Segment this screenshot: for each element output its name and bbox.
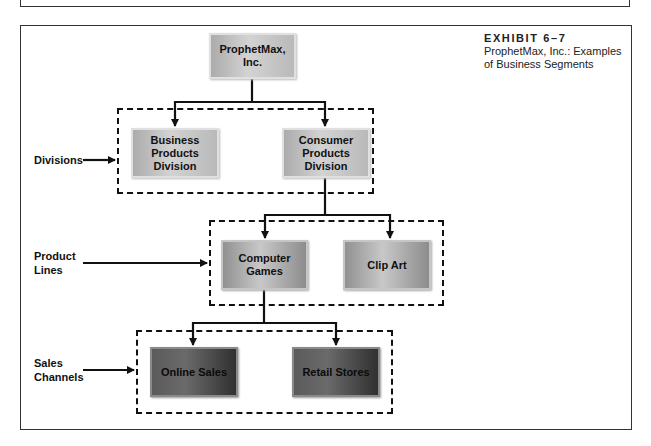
node-consumer-products-division: ConsumerProductsDivision <box>282 128 370 178</box>
node-computer-games: ComputerGames <box>221 240 308 290</box>
node-online-sales: Online Sales <box>150 347 238 397</box>
node-retail-stores: Retail Stores <box>292 347 380 397</box>
node-prophetmax: ProphetMax,Inc. <box>209 33 296 79</box>
label-product-lines: Product Lines <box>34 249 76 277</box>
label-sales-channels: Sales Channels <box>34 356 84 384</box>
label-divisions: Divisions <box>34 153 83 167</box>
node-clip-art: Clip Art <box>343 240 431 290</box>
node-business-products-division: BusinessProductsDivision <box>131 128 219 178</box>
